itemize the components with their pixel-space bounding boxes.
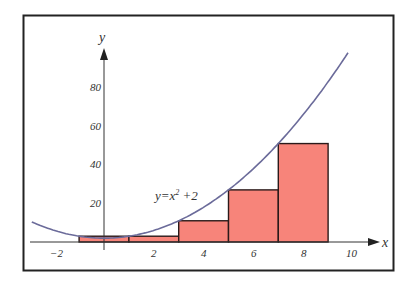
riemann-rectangle (229, 190, 279, 242)
x-tick-label: −2 (50, 247, 63, 259)
y-tick-label: 40 (90, 158, 102, 170)
riemann-rectangle (129, 236, 179, 242)
riemann-sum-diagram: x y −2 2 4 6 8 10 20 40 60 80 y=x2 +2 (0, 0, 412, 285)
x-axis-label: x (381, 235, 389, 250)
x-tick-label: 8 (301, 247, 307, 259)
riemann-rectangle (179, 221, 229, 242)
y-tick-label: 80 (90, 81, 102, 93)
x-tick-label: 4 (201, 247, 207, 259)
y-tick-label: 60 (90, 120, 102, 132)
y-tick-label: 20 (90, 197, 102, 209)
x-tick-label: 2 (151, 247, 157, 259)
x-tick-label: 10 (346, 247, 358, 259)
x-tick-label: 6 (251, 247, 257, 259)
riemann-rectangle (278, 144, 328, 242)
y-axis-label: y (97, 30, 106, 45)
